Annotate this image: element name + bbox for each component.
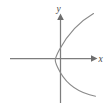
arrow-right-icon [91,55,98,62]
x-axis-label: x [97,54,103,64]
parabola-curve [55,14,95,97]
arrow-up-icon [57,14,64,21]
figure-container: x y [0,0,111,111]
parabola-figure: x y [0,0,111,111]
y-axis-label: y [55,4,61,14]
